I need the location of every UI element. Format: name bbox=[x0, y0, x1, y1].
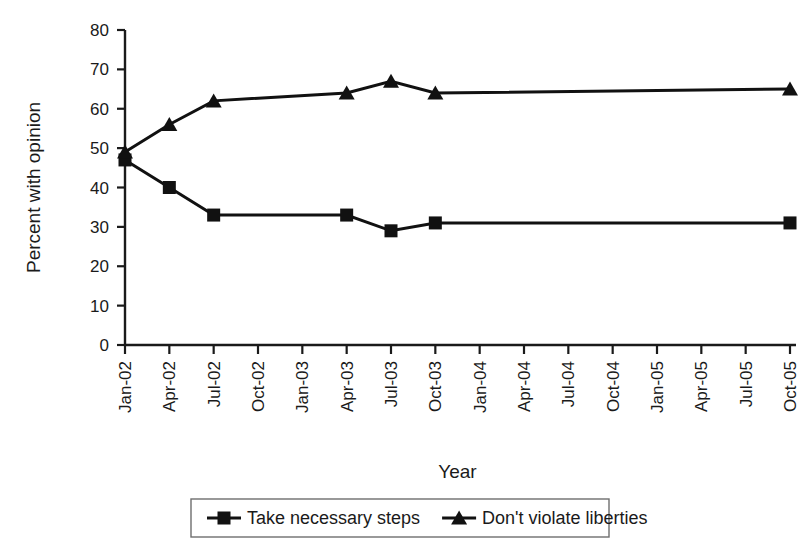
triangle-marker-icon bbox=[117, 145, 133, 159]
square-marker-icon bbox=[385, 224, 398, 237]
square-marker-icon bbox=[784, 216, 797, 229]
x-tick-label: Apr-04 bbox=[515, 361, 534, 412]
axes bbox=[125, 30, 796, 345]
series-1 bbox=[119, 153, 797, 237]
y-tick-label: 0 bbox=[100, 336, 109, 355]
line-chart: 01020304050607080Jan-02Apr-02Jul-02Oct-0… bbox=[0, 0, 801, 555]
x-tick-label: Jul-05 bbox=[737, 361, 756, 407]
series-2 bbox=[117, 74, 798, 159]
x-tick-label: Apr-02 bbox=[160, 361, 179, 412]
triangle-marker-icon bbox=[161, 117, 177, 131]
chart-container: 01020304050607080Jan-02Apr-02Jul-02Oct-0… bbox=[0, 0, 801, 555]
x-tick-label: Jul-03 bbox=[382, 361, 401, 407]
legend-label: Take necessary steps bbox=[247, 508, 420, 528]
chart-legend: Take necessary stepsDon't violate libert… bbox=[191, 499, 648, 537]
y-tick-label: 10 bbox=[90, 297, 109, 316]
legend-item-2[interactable]: Don't violate liberties bbox=[442, 508, 648, 528]
y-tick-label: 40 bbox=[90, 179, 109, 198]
x-tick-label: Oct-04 bbox=[604, 361, 623, 412]
x-tick-label: Jan-02 bbox=[116, 361, 135, 413]
series-line bbox=[125, 81, 790, 152]
x-tick-label: Apr-05 bbox=[692, 361, 711, 412]
y-tick-label: 80 bbox=[90, 21, 109, 40]
x-tick-label: Apr-03 bbox=[338, 361, 357, 412]
square-marker-icon bbox=[429, 216, 442, 229]
triangle-marker-icon bbox=[383, 74, 399, 88]
square-marker-icon bbox=[340, 209, 353, 222]
x-tick-label: Jan-03 bbox=[293, 361, 312, 413]
x-tick-label: Oct-05 bbox=[781, 361, 800, 412]
square-marker-icon bbox=[218, 512, 231, 525]
y-tick-label: 60 bbox=[90, 100, 109, 119]
y-tick-label: 70 bbox=[90, 60, 109, 79]
legend-item-1[interactable]: Take necessary steps bbox=[207, 508, 420, 528]
x-tick-label: Oct-03 bbox=[426, 361, 445, 412]
series-line bbox=[125, 160, 790, 231]
y-tick-group: 01020304050607080 bbox=[90, 21, 125, 355]
square-marker-icon bbox=[207, 209, 220, 222]
y-tick-label: 50 bbox=[90, 139, 109, 158]
y-tick-label: 20 bbox=[90, 257, 109, 276]
x-tick-group: Jan-02Apr-02Jul-02Oct-02Jan-03Apr-03Jul-… bbox=[116, 345, 800, 413]
x-axis-title: Year bbox=[438, 461, 477, 482]
legend-label: Don't violate liberties bbox=[482, 508, 648, 528]
x-tick-label: Oct-02 bbox=[249, 361, 268, 412]
square-marker-icon bbox=[163, 181, 176, 194]
y-tick-label: 30 bbox=[90, 218, 109, 237]
x-tick-label: Jan-04 bbox=[471, 361, 490, 413]
x-tick-label: Jul-02 bbox=[205, 361, 224, 407]
y-axis-title: Percent with opinion bbox=[23, 102, 44, 273]
x-tick-label: Jan-05 bbox=[648, 361, 667, 413]
x-tick-label: Jul-04 bbox=[559, 361, 578, 407]
